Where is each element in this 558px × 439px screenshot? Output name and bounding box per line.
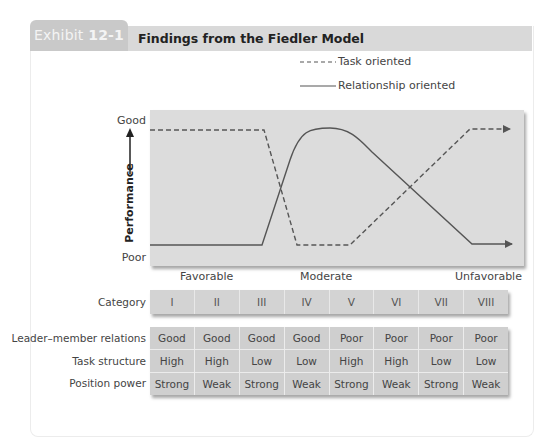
category-cell: I: [150, 290, 195, 314]
task-oriented-line: [150, 129, 510, 245]
table-cell: Good: [240, 327, 285, 349]
table-cell: Good: [195, 327, 240, 349]
situation-table: Good Good Good Good Poor Poor Poor Poor …: [150, 327, 508, 395]
category-cell: II: [195, 290, 240, 314]
relationship-oriented-line: [150, 128, 512, 245]
table-cell: Poor: [330, 327, 375, 349]
table-cell: Poor: [464, 327, 508, 349]
row-label-leader-member: Leader–member relations: [12, 332, 146, 344]
table-row: Good Good Good Good Poor Poor Poor Poor: [150, 327, 508, 350]
category-cell: VII: [419, 290, 464, 314]
table-cell: Poor: [419, 327, 464, 349]
zone-favorable: Favorable: [180, 270, 233, 283]
table-cell: Weak: [285, 373, 330, 395]
category-cell: IV: [285, 290, 330, 314]
zone-moderate: Moderate: [300, 270, 352, 283]
table-cell: Low: [464, 350, 508, 372]
category-cell: VIII: [464, 290, 508, 314]
category-row: I II III IV V VI VII VIII: [150, 290, 508, 314]
table-cell: High: [150, 350, 195, 372]
table-cell: High: [195, 350, 240, 372]
row-label-position-power: Position power: [69, 377, 146, 389]
table-cell: High: [330, 350, 375, 372]
table-cell: Strong: [419, 373, 464, 395]
zone-unfavorable: Unfavorable: [455, 270, 522, 283]
category-cell: V: [330, 290, 375, 314]
category-cell: III: [240, 290, 285, 314]
table-cell: Good: [150, 327, 195, 349]
table-row: High High Low Low High High Low Low: [150, 350, 508, 373]
table-cell: High: [374, 350, 419, 372]
table-cell: Weak: [195, 373, 240, 395]
table-cell: Low: [419, 350, 464, 372]
table-cell: Weak: [464, 373, 508, 395]
table-row: Strong Weak Strong Weak Strong Weak Stro…: [150, 373, 508, 395]
category-cell: VI: [374, 290, 419, 314]
table-cell: Strong: [150, 373, 195, 395]
table-cell: Weak: [374, 373, 419, 395]
row-label-task-structure: Task structure: [72, 355, 146, 367]
table-cell: Strong: [240, 373, 285, 395]
table-cell: Good: [285, 327, 330, 349]
table-cell: Poor: [374, 327, 419, 349]
table-cell: Low: [240, 350, 285, 372]
category-label: Category: [98, 296, 146, 308]
table-cell: Low: [285, 350, 330, 372]
table-cell: Strong: [330, 373, 375, 395]
